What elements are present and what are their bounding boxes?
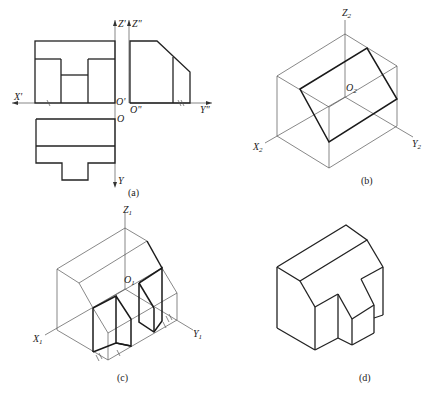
label-y-double-prime: Y" [200,104,211,115]
label-origin-double-prime: O" [130,104,142,115]
y2-axis [345,97,413,137]
label-y: Y [118,175,125,186]
panel-d-solid: (d) [277,225,383,384]
label-x2: X2 [252,141,263,154]
panel-b-bounding-box: Z2 O2 X2 Y2 (b) [252,7,422,187]
top-view [36,119,115,180]
label-origin: O [117,113,124,124]
panel-a-three-view: Z' Z" X' O' O" Y" O Y (a) [12,18,212,199]
label-z1: Z1 [123,204,132,217]
figure-canvas: Z' Z" X' O' O" Y" O Y (a) Z2 O2 X2 Y2 (b… [0,0,433,396]
caption-a: (a) [128,187,139,199]
notch-left [93,296,131,346]
label-z2: Z2 [342,7,352,20]
label-origin-prime: O' [116,96,126,107]
caption-d: (d) [359,372,371,384]
z-prime-arrow-icon [113,20,117,26]
label-y2: Y2 [412,138,422,151]
front-view [35,41,115,106]
caption-c: (c) [117,372,128,384]
panel-c-construction: Z1 O1 X1 Y1 (c) [32,204,202,384]
label-x-prime: X' [13,91,23,102]
label-z-prime: Z' [118,18,127,29]
y-axis-arrow-icon [113,182,117,188]
label-x1: X1 [32,333,43,346]
notch-right [139,268,162,332]
label-y1: Y1 [193,328,202,341]
z-double-prime-arrow-icon [127,20,131,26]
label-z-double-prime: Z" [132,18,143,29]
caption-b: (b) [361,175,373,187]
side-view [130,41,190,106]
label-o1: O1 [124,274,135,287]
